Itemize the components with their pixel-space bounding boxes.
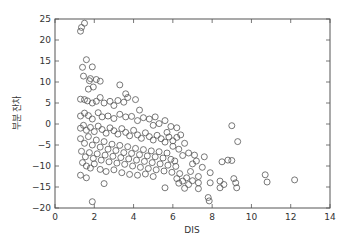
data-point xyxy=(82,20,88,26)
data-point xyxy=(184,175,190,181)
data-point xyxy=(162,118,168,124)
data-point xyxy=(115,98,121,104)
data-point xyxy=(133,145,139,151)
data-point xyxy=(83,175,89,181)
data-point xyxy=(201,154,207,160)
data-point xyxy=(78,28,84,34)
data-point xyxy=(146,116,152,122)
data-point xyxy=(150,174,156,180)
data-point xyxy=(119,126,125,132)
axes-frame xyxy=(55,19,330,208)
data-point xyxy=(129,113,135,119)
data-point xyxy=(140,147,146,153)
data-point xyxy=(113,148,119,154)
data-point xyxy=(154,132,160,138)
data-point xyxy=(173,163,179,169)
y-tick-label: 25 xyxy=(40,14,51,24)
data-point xyxy=(140,115,146,121)
data-point xyxy=(169,169,175,175)
y-tick-label: −20 xyxy=(32,203,51,213)
data-point xyxy=(111,116,117,122)
data-point xyxy=(199,164,205,170)
data-point xyxy=(176,146,182,152)
data-point xyxy=(134,157,140,163)
data-point xyxy=(105,113,111,119)
data-point xyxy=(111,167,117,173)
x-tick-label: 2 xyxy=(91,212,97,222)
data-point xyxy=(207,180,213,186)
data-point xyxy=(141,158,147,164)
data-point xyxy=(91,161,97,167)
data-point xyxy=(219,159,225,165)
data-point xyxy=(262,172,268,178)
data-point xyxy=(95,123,101,129)
x-tick-label: 12 xyxy=(285,212,296,222)
data-point xyxy=(137,164,143,170)
data-point xyxy=(105,146,111,152)
data-point xyxy=(221,182,227,188)
data-point xyxy=(193,158,199,164)
data-point xyxy=(103,130,109,136)
data-point xyxy=(127,133,133,139)
data-point xyxy=(158,136,164,142)
data-point xyxy=(103,169,109,175)
data-point xyxy=(138,135,144,141)
data-point xyxy=(190,178,196,184)
y-tick-label: −10 xyxy=(32,161,51,171)
data-point xyxy=(114,160,120,166)
data-point xyxy=(115,131,121,137)
data-point xyxy=(89,64,95,70)
data-point xyxy=(165,162,171,168)
data-point xyxy=(264,179,270,185)
data-point xyxy=(91,129,97,135)
data-point xyxy=(89,142,95,148)
data-point xyxy=(153,167,159,173)
x-tick-label: 10 xyxy=(246,212,258,222)
data-point xyxy=(79,24,85,30)
y-tick-label: 5 xyxy=(45,98,51,108)
data-point xyxy=(101,181,107,187)
data-point xyxy=(90,84,96,90)
data-point xyxy=(94,151,100,157)
data-point xyxy=(152,114,158,120)
data-point xyxy=(83,127,89,133)
data-point xyxy=(145,166,151,172)
data-point xyxy=(79,148,85,154)
data-point xyxy=(89,100,95,106)
data-point xyxy=(122,161,128,167)
data-point xyxy=(190,161,196,167)
data-point xyxy=(137,152,143,158)
x-tick-label: 14 xyxy=(324,212,336,222)
data-point xyxy=(188,169,194,175)
data-point xyxy=(144,153,150,159)
data-point xyxy=(102,152,108,158)
data-point xyxy=(229,123,235,129)
data-point xyxy=(93,137,99,143)
data-point xyxy=(186,150,192,156)
data-point xyxy=(150,122,156,128)
data-point xyxy=(126,156,132,162)
y-axis-label: 부분 잔차 xyxy=(11,95,22,131)
data-point xyxy=(217,178,223,184)
data-point xyxy=(195,186,201,192)
data-point xyxy=(195,180,201,186)
data-point xyxy=(121,99,127,105)
scatter-chart: 02468101214 −20−15−10−50510152025 DIS 부분… xyxy=(0,0,351,248)
data-point xyxy=(133,97,139,103)
y-tick-label: −15 xyxy=(32,182,51,192)
data-point xyxy=(83,57,89,63)
data-point xyxy=(161,168,167,174)
data-point xyxy=(78,113,84,119)
y-tick-label: 10 xyxy=(40,77,52,87)
data-point xyxy=(99,114,105,120)
data-point xyxy=(149,160,155,166)
y-tick-label: 20 xyxy=(40,35,52,45)
y-tick-label: 0 xyxy=(45,119,51,129)
data-point xyxy=(117,82,123,88)
data-point xyxy=(135,132,141,138)
data-point xyxy=(97,78,103,84)
data-point xyxy=(182,140,188,146)
data-point xyxy=(168,156,174,162)
data-point xyxy=(80,160,86,166)
data-point xyxy=(109,141,115,147)
